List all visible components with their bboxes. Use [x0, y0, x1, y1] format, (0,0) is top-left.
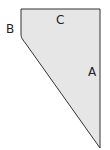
label-b: B: [6, 23, 14, 35]
label-c: C: [56, 14, 64, 26]
label-a: A: [88, 66, 96, 78]
